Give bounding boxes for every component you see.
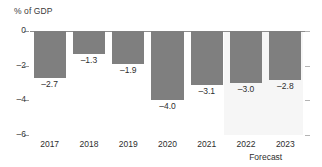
y-tick-mark-right (305, 31, 310, 32)
bar (73, 31, 105, 54)
y-tick-label: –2 (17, 60, 26, 70)
x-tick-label: 2023 (265, 139, 305, 149)
x-tick-label: 2017 (30, 139, 70, 149)
forecast-annotation: Forecast (226, 152, 306, 162)
y-tick-mark-right (305, 135, 310, 136)
x-tick-label: 2022 (226, 139, 266, 149)
bar-value-label: –2.8 (265, 81, 305, 91)
bar (151, 31, 183, 100)
y-tick-mark-right (305, 66, 310, 67)
y-tick-label: 0 (21, 25, 26, 35)
bar-value-label: –1.3 (69, 55, 109, 65)
y-axis-title: % of GDP (14, 6, 53, 16)
y-tick-label: –4 (17, 94, 26, 104)
bar-chart: % of GDP 0–2–4–6 –2.7–1.3–1.9–4.0–3.1–3.… (0, 0, 322, 167)
y-tick-mark-right (305, 100, 310, 101)
x-tick-label: 2019 (108, 139, 148, 149)
x-tick-label: 2021 (187, 139, 227, 149)
x-tick-label: 2018 (69, 139, 109, 149)
bar (112, 31, 144, 64)
y-tick-label: –6 (17, 129, 26, 139)
bar (34, 31, 66, 78)
bar-value-label: –1.9 (108, 65, 148, 75)
bar-value-label: –3.0 (226, 84, 266, 94)
bar-value-label: –4.0 (148, 101, 188, 111)
bar-value-label: –3.1 (187, 86, 227, 96)
bar (191, 31, 223, 85)
bar (230, 31, 262, 83)
bar (269, 31, 301, 80)
bar-value-label: –2.7 (30, 79, 70, 89)
x-tick-label: 2020 (148, 139, 188, 149)
